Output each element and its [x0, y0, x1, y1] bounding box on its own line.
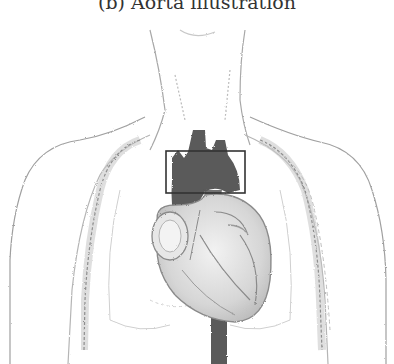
aorta-illustration — [0, 0, 394, 364]
heart — [152, 194, 271, 322]
ribcage-left — [84, 140, 140, 350]
